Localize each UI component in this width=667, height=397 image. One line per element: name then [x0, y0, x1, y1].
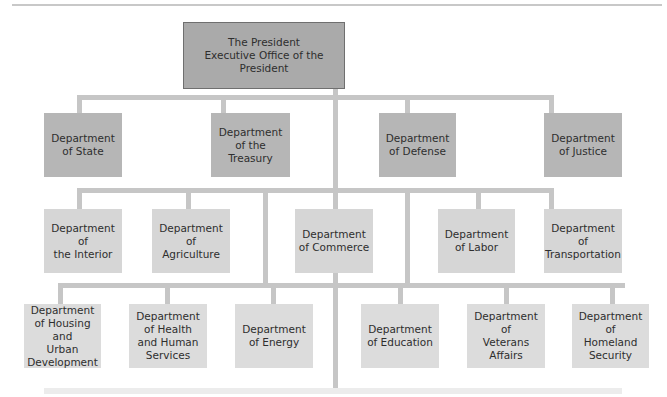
dept-energy-label: Department of Energy: [242, 323, 306, 349]
dept-transportation-box: Department of Transportation: [544, 209, 622, 273]
dept-justice-label: Department of Justice: [551, 132, 615, 158]
tier3-bar: [58, 283, 625, 288]
dept-homeland-label: Department of Homeland Security: [574, 310, 647, 362]
tier2-right-branch: [405, 188, 410, 283]
dept-commerce-label: Department of Commerce: [299, 228, 369, 254]
dept-transportation-label: Department of Transportation: [545, 222, 621, 261]
dept-interior-box: Department of the Interior: [44, 209, 122, 273]
dept-housing-label: Department of Housing and Urban Developm…: [26, 304, 99, 369]
dept-defense-label: Department of Defense: [386, 132, 450, 158]
dept-treasury-box: Department of the Treasury: [211, 113, 290, 177]
dept-veterans-label: Department of Veterans Affairs: [469, 310, 543, 362]
tier2-bar: [77, 188, 554, 193]
tier3-drop-education: [398, 283, 403, 304]
dept-treasury-label: Department of the Treasury: [213, 126, 288, 165]
tier1-drop-treasury: [221, 95, 226, 113]
tier2-drop-labor: [476, 188, 481, 209]
dept-veterans-box: Department of Veterans Affairs: [467, 304, 545, 368]
tier1-drop-defense: [405, 95, 410, 113]
dept-agriculture-label: Department of Agriculture: [154, 222, 228, 261]
dept-defense-box: Department of Defense: [379, 113, 456, 177]
dept-housing-box: Department of Housing and Urban Developm…: [24, 304, 101, 368]
tier1-bar: [77, 95, 554, 100]
tier3-drop-energy: [271, 283, 276, 304]
dept-justice-box: Department of Justice: [544, 113, 622, 177]
dept-state-box: Department of State: [44, 113, 122, 177]
dept-energy-box: Department of Energy: [235, 304, 313, 368]
president-box: The President Executive Office of the Pr…: [183, 22, 345, 89]
header-rule: [12, 4, 662, 6]
dept-homeland-box: Department of Homeland Security: [572, 304, 649, 368]
president-title: The President: [186, 36, 342, 49]
dept-agriculture-box: Department of Agriculture: [152, 209, 230, 273]
tier1-drop-justice: [549, 95, 554, 113]
dept-education-box: Department of Education: [361, 304, 439, 368]
tier3-drop-homeland: [610, 283, 615, 304]
dept-health-label: Department of Health and Human Services: [136, 310, 200, 362]
tier3-drop-veterans: [504, 283, 509, 304]
bottom-strip: [44, 388, 622, 394]
dept-labor-label: Department of Labor: [445, 228, 509, 254]
tier2-drop-transportation: [549, 188, 554, 209]
tier1-drop-state: [77, 95, 82, 113]
tier2-drop-agriculture: [186, 188, 191, 209]
tier3-drop-health: [165, 283, 170, 304]
tier2-drop-interior: [77, 188, 82, 209]
tier3-drop-housing: [58, 283, 63, 304]
dept-education-label: Department of Education: [367, 323, 433, 349]
dept-labor-box: Department of Labor: [438, 209, 515, 273]
dept-health-box: Department of Health and Human Services: [129, 304, 207, 368]
dept-commerce-box: Department of Commerce: [295, 209, 373, 273]
dept-interior-label: Department of the Interior: [46, 222, 120, 261]
tier2-left-branch: [263, 188, 268, 283]
dept-state-label: Department of State: [51, 132, 115, 158]
executive-office-title: Executive Office of the President: [186, 49, 342, 75]
